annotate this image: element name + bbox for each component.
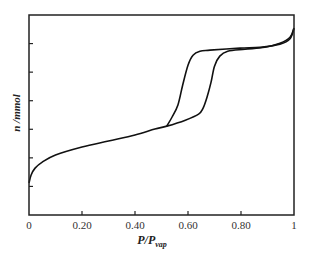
x-tick-label: 0 (26, 219, 32, 231)
desorption-curve (167, 28, 294, 126)
series-layer (29, 28, 294, 183)
x-axis-label-main: P/P (137, 233, 156, 247)
adsorption-curve (29, 28, 294, 183)
x-ticks: 00.200.400.600.801 (26, 211, 297, 231)
x-tick-label: 0.60 (178, 219, 198, 231)
isotherm-chart: 00.200.400.600.801 P/Pvap n /mmol (0, 0, 311, 263)
plot-frame (29, 15, 294, 215)
y-axis-label: n /mmol (10, 93, 22, 132)
x-tick-label: 0.40 (125, 219, 145, 231)
x-axis-label-subscript: vap (155, 240, 167, 249)
x-tick-label: 0.20 (72, 219, 92, 231)
x-tick-label: 1 (291, 219, 297, 231)
x-tick-label: 0.80 (231, 219, 251, 231)
x-axis-label: P/Pvap (137, 233, 167, 249)
